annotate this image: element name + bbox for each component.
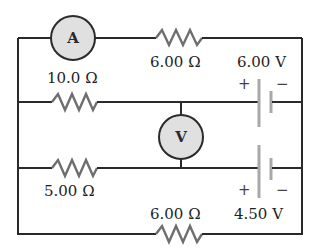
ammeter-label: A — [51, 31, 95, 46]
resistor-10ohm-zigzag — [52, 94, 97, 110]
resistor-bottom-label: 6.00 Ω — [150, 207, 201, 222]
circuit-diagram: A V 6.00 Ω 10.0 Ω 5.00 Ω 6.00 Ω 6.00 V +… — [0, 0, 319, 252]
battery-4v5-plus-sign: + — [238, 183, 251, 198]
battery-6v-plus-sign: + — [238, 77, 251, 92]
resistor-10ohm-label: 10.0 Ω — [47, 71, 98, 86]
battery-6v-minus-sign: − — [276, 77, 289, 92]
resistor-bottom-zigzag — [156, 226, 202, 242]
battery-4v5-label: 4.50 V — [234, 207, 283, 222]
resistor-5ohm-label: 5.00 Ω — [44, 184, 95, 199]
resistor-5ohm-zigzag — [52, 160, 97, 176]
resistor-top-zigzag — [156, 30, 202, 45]
resistor-top-label: 6.00 Ω — [150, 55, 201, 70]
battery-6v-label: 6.00 V — [237, 55, 286, 70]
battery-4v5-minus-sign: − — [276, 183, 289, 198]
voltmeter-label: V — [159, 130, 203, 145]
